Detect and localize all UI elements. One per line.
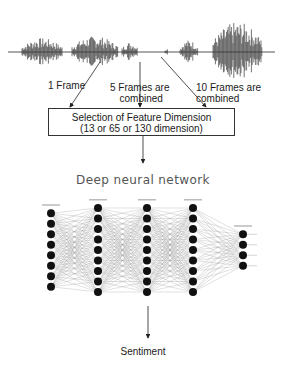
- output-label: Sentiment: [0, 346, 286, 357]
- feature-box-subtitle: (13 or 65 or 130 dimension): [49, 123, 234, 134]
- feature-box-title: Selection of Feature Dimension: [49, 112, 234, 123]
- feature-selection-box: Selection of Feature Dimension (13 or 65…: [48, 108, 235, 136]
- label-1-frame: 1 Frame: [48, 81, 85, 91]
- network-title: Deep neural network: [0, 173, 286, 187]
- label-5-frames-line2: combined: [110, 94, 169, 104]
- label-5-frames: 5 Frames are combined: [110, 83, 169, 104]
- label-10-frames: 10 Frames are combined: [196, 83, 261, 104]
- label-5-frames-line1: 5 Frames are: [110, 83, 169, 93]
- label-10-frames-line2: combined: [196, 94, 261, 104]
- label-10-frames-line1: 10 Frames are: [196, 83, 261, 93]
